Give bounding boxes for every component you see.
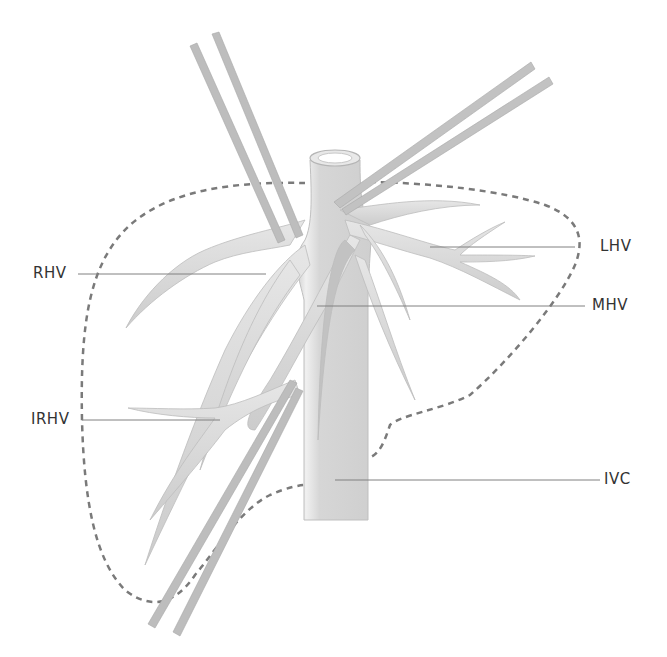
tape-top-left bbox=[190, 32, 303, 243]
label-irhv: IRHV bbox=[31, 412, 69, 427]
label-mhv: MHV bbox=[592, 298, 628, 313]
label-lhv: LHV bbox=[600, 239, 631, 254]
label-rhv: RHV bbox=[33, 266, 66, 281]
liver-outline-right bbox=[368, 182, 580, 458]
label-ivc: IVC bbox=[604, 472, 631, 487]
hepatic-vein-diagram bbox=[0, 0, 667, 657]
tape-top-right bbox=[334, 62, 553, 215]
